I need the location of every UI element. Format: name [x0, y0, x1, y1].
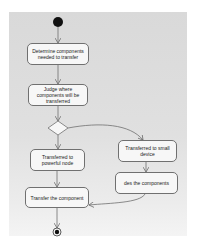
action-label: Judge where components will be transferr…	[31, 86, 85, 104]
action-label: Transfer the component	[31, 195, 84, 201]
action-transferred-to-small-device: Transferred to small device	[118, 140, 177, 162]
action-transfer-the-component: Transfer the component	[25, 187, 89, 208]
action-label: des the components	[124, 180, 169, 186]
decision-node-icon	[48, 121, 68, 135]
action-label: Transferred to small device	[121, 145, 174, 157]
action-des-the-components: des the components	[115, 172, 178, 194]
action-transferred-to-powerful-node: Transferred to powerful node	[30, 149, 85, 171]
action-determine-components: Determine components needed to transfer	[27, 43, 89, 65]
action-judge-where: Judge where components will be transferr…	[28, 84, 88, 106]
diagram-edges	[0, 0, 197, 252]
edge-a5-a6	[89, 194, 145, 205]
action-label: Determine components needed to transfer	[30, 48, 86, 60]
start-node-icon	[53, 17, 63, 27]
action-label: Transferred to powerful node	[33, 154, 82, 166]
edge-decision-a4	[68, 125, 143, 140]
end-node-icon	[55, 230, 59, 234]
